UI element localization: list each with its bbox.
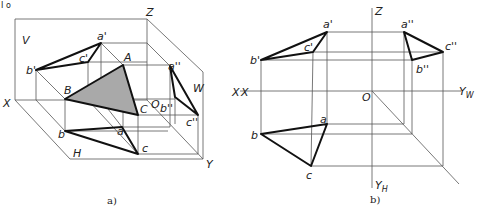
bisector-45 [372, 91, 459, 184]
label-o-b: O [362, 91, 371, 104]
label-b-prime-b: b' [250, 54, 260, 67]
diagram-svg: I o Z V a' b' c' A B C X O b'' a'' c'' W… [0, 0, 479, 206]
label-plane-h: H [73, 147, 81, 160]
h-projection-triangle-b [261, 124, 327, 166]
projection-figure: I o Z V a' b' c' A B C X O b'' a'' c'' W… [0, 0, 479, 206]
label-x: X [2, 97, 11, 110]
label-o: O [151, 98, 160, 111]
label-a-double-prime-b: a'' [401, 18, 414, 31]
panel-b: Z a' b' c' a'' c'' b'' X O YW a b c YH b… [240, 5, 475, 205]
label-a: a [117, 125, 124, 138]
label-b-b: b [251, 129, 258, 142]
v-projection-triangle-b [261, 32, 327, 60]
v-projection-triangle [36, 43, 101, 70]
label-c-double-prime: c'' [186, 116, 198, 129]
label-yh: YH [375, 179, 388, 194]
label-b-double-prime-b: b'' [416, 63, 429, 76]
label-B: B [64, 84, 72, 97]
label-plane-w: W [193, 82, 205, 95]
label-x-right: X [231, 86, 240, 99]
label-b-prime: b' [26, 64, 36, 77]
label-b: b [58, 128, 65, 141]
label-y: Y [206, 158, 214, 171]
caption-b: b) [370, 194, 380, 205]
label-c-b: c [306, 169, 312, 182]
label-a-b: a [320, 113, 327, 126]
label-a-double-prime: a'' [168, 60, 181, 73]
caption-a: a) [107, 195, 117, 206]
label-C: C [140, 103, 148, 116]
label-b-double-prime: b'' [160, 102, 173, 115]
label-a-prime: a' [97, 30, 107, 43]
label-c-prime-b: c' [304, 41, 313, 54]
label-c-prime: c' [79, 52, 88, 65]
label-a-prime-b: a' [323, 18, 333, 31]
label-c-double-prime-b: c'' [445, 40, 457, 53]
label-c: c [142, 142, 148, 155]
figure-marker: I o [1, 1, 11, 10]
label-A: A [123, 51, 132, 64]
label-z-b: Z [374, 5, 383, 18]
panel-a: I o Z V a' b' c' A B C X O b'' a'' c'' W… [1, 1, 240, 206]
w-projection-triangle-b [404, 32, 443, 60]
label-yw: YW [459, 85, 475, 100]
label-x-b: X [240, 86, 249, 99]
triangle-ABC [65, 65, 138, 115]
projector-lines-b [261, 32, 443, 166]
label-z: Z [145, 6, 154, 19]
label-plane-v: V [22, 34, 31, 47]
